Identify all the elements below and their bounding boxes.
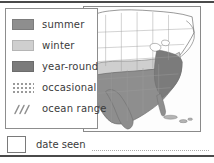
- filled-square-icon: [12, 40, 34, 51]
- legend-item-label: ocean range: [42, 103, 107, 114]
- legend-item-label: winter: [42, 40, 75, 51]
- filled-square-icon: [12, 61, 34, 72]
- legend-row-list: summer winter year-round occasional: [6, 9, 97, 119]
- date-seen-input[interactable]: [92, 149, 209, 151]
- legend-item-label: occasional: [42, 82, 97, 93]
- dotted-square-icon: [12, 82, 34, 93]
- filled-square-icon: [12, 19, 34, 30]
- legend-item-summer[interactable]: summer: [6, 14, 97, 35]
- worksheet-page: summer winter year-round occasional: [0, 0, 214, 163]
- date-seen-label: date seen: [36, 139, 86, 150]
- legend-item-ocean-range[interactable]: ocean range: [6, 98, 97, 119]
- legend-item-occasional[interactable]: occasional: [6, 77, 97, 98]
- top-divider-rule: [0, 1, 214, 3]
- bottom-divider-rule: [0, 155, 214, 157]
- diagonal-hatch-icon: [12, 103, 34, 114]
- map-legend-panel: summer winter year-round occasional: [5, 8, 98, 129]
- legend-item-label: year-round: [42, 61, 98, 72]
- legend-item-winter[interactable]: winter: [6, 35, 97, 56]
- legend-item-year-round[interactable]: year-round: [6, 56, 97, 77]
- date-seen-row: date seen: [7, 134, 209, 154]
- empty-box-icon[interactable]: [7, 136, 26, 153]
- legend-item-label: summer: [42, 19, 85, 30]
